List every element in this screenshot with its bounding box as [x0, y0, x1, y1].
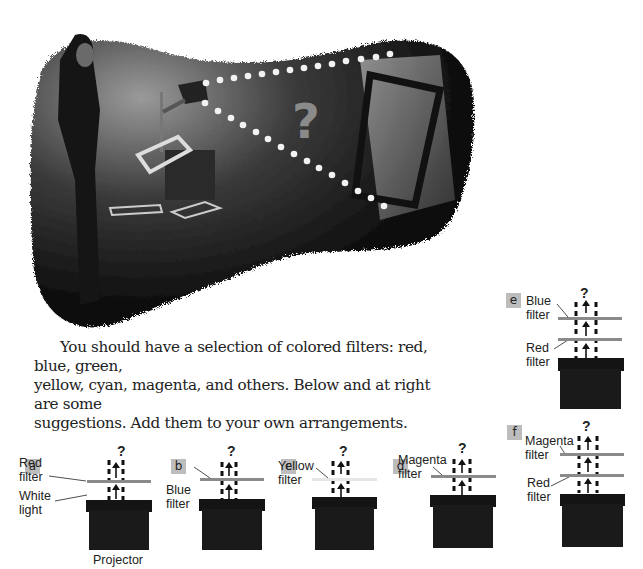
red-filter [560, 474, 624, 477]
projector-body [562, 504, 623, 547]
beam-arrows-f [0, 0, 643, 569]
magenta-filter [560, 453, 624, 456]
